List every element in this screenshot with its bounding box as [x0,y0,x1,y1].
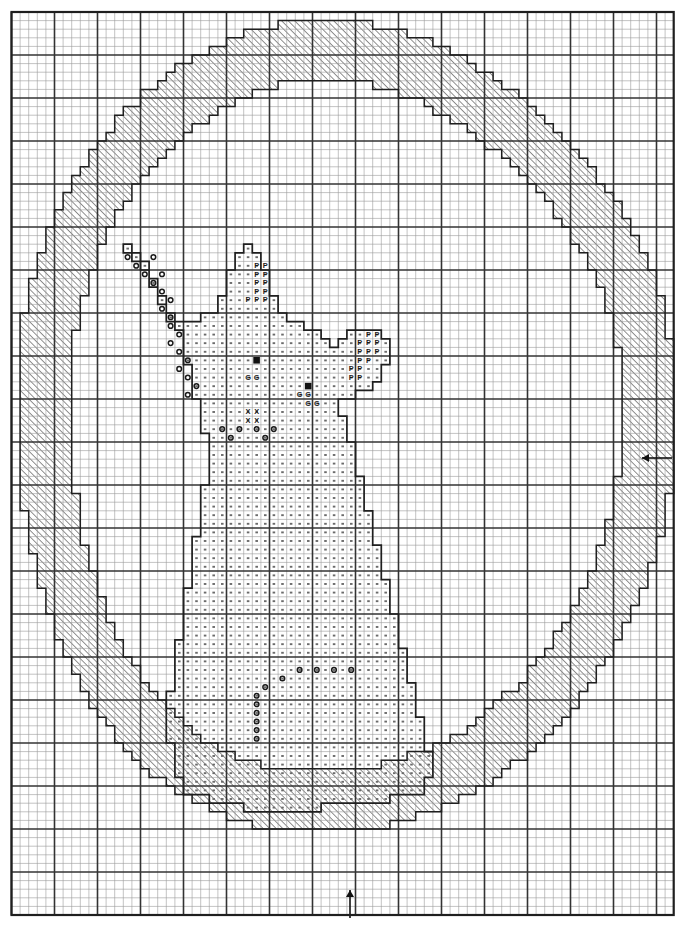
symbol-cell: G [305,399,311,408]
symbol-cell: P [357,373,362,382]
solid-square-symbol [305,383,312,390]
symbol-cell: G [314,399,320,408]
symbol-cell: G [254,373,260,382]
symbol-cell: P [246,295,251,304]
symbol-cell: P [263,295,268,304]
symbol-cell: P [254,295,259,304]
solid-square-symbol [253,357,260,364]
cross-stitch-chart: PPPPPPPPPPPPPPPPPPPPPPPPPGGGGGGXXXX [0,0,687,934]
symbol-cell: P [366,356,371,365]
symbol-cell: P [375,347,380,356]
symbol-cell: X [254,416,259,425]
symbol-cell: P [349,373,354,382]
symbol-cell: X [246,416,251,425]
symbol-cell: G [245,373,251,382]
pattern-canvas: PPPPPPPPPPPPPPPPPPPPPPPPPGGGGGGXXXX [0,0,687,934]
symbol-cell: G [297,390,303,399]
